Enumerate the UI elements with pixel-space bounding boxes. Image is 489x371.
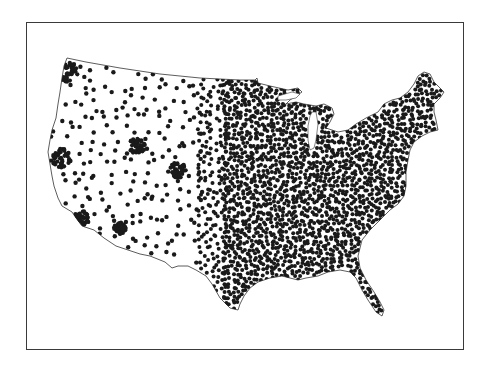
us-dot-density-map [0, 0, 489, 371]
population-dots [49, 61, 443, 315]
lake-lake-michigan [308, 112, 318, 150]
